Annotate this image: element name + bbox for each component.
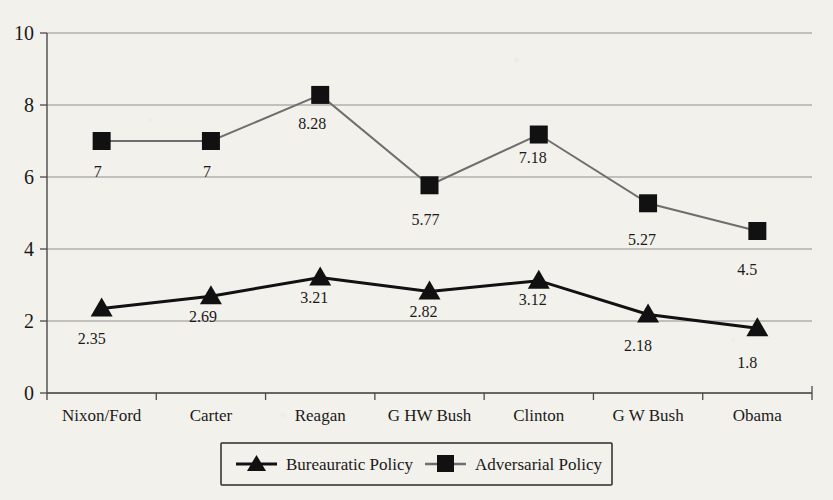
triangle-marker: [309, 266, 331, 285]
square-marker: [639, 194, 657, 212]
y-tick-label: 8: [24, 94, 34, 116]
y-tick-label: 6: [24, 166, 34, 188]
square-marker: [421, 176, 439, 194]
data-point-label: 2.35: [78, 330, 106, 347]
legend-label-adversarial-policy: Adversarial Policy: [475, 455, 602, 474]
chart-legend: Bureauratic Policy Adversarial Policy: [221, 443, 612, 485]
square-marker: [530, 126, 548, 144]
data-point-label: 2.82: [410, 303, 438, 320]
y-tick-label: 0: [24, 382, 34, 404]
data-point-label: 7: [203, 163, 211, 180]
y-tick-label: 2: [24, 310, 34, 332]
square-marker: [202, 132, 220, 150]
data-point-label: 5.77: [412, 211, 440, 228]
series-value-labels-adversarial-policy: 778.285.777.185.274.5: [94, 115, 758, 278]
legend-item-adversarial-policy[interactable]: Adversarial Policy: [425, 455, 602, 474]
legend-label-bureauratic-policy: Bureauratic Policy: [286, 455, 413, 474]
data-point-label: 2.18: [624, 337, 652, 354]
series-markers-bureauratic-policy: [91, 266, 769, 336]
triangle-marker: [528, 270, 550, 289]
square-marker: [748, 222, 766, 240]
data-point-label: 1.8: [737, 354, 757, 371]
data-point-label: 3.21: [300, 289, 328, 306]
y-tick-label: 4: [24, 238, 34, 260]
data-point-label: 5.27: [628, 231, 656, 248]
y-axis-ticks: 0246810: [14, 22, 47, 404]
square-marker: [311, 86, 329, 104]
line-chart: 0246810 778.285.777.185.274.5 2.352.693.…: [0, 0, 833, 500]
x-category-label: G HW Bush: [388, 406, 472, 425]
x-category-label: Carter: [190, 406, 233, 425]
x-axis-ticks: [47, 393, 812, 400]
data-point-label: 4.5: [737, 261, 757, 278]
data-point-label: 7: [94, 163, 102, 180]
data-point-label: 8.28: [298, 115, 326, 132]
x-axis-category-labels: Nixon/FordCarterReaganG HW BushClintonG …: [62, 406, 782, 425]
x-category-label: Obama: [733, 406, 783, 425]
square-marker-icon: [437, 455, 454, 472]
x-category-label: Nixon/Ford: [62, 406, 142, 425]
x-category-label: Clinton: [513, 406, 565, 425]
legend-item-bureauratic-policy[interactable]: Bureauratic Policy: [236, 455, 413, 474]
x-category-label: G W Bush: [612, 406, 684, 425]
data-point-label: 3.12: [519, 291, 547, 308]
y-tick-label: 10: [14, 22, 34, 44]
data-point-label: 2.69: [189, 308, 217, 325]
series-value-labels-bureauratic-policy: 2.352.693.212.823.122.181.8: [78, 289, 758, 371]
square-marker: [93, 132, 111, 150]
data-point-label: 7.18: [519, 149, 547, 166]
chart-canvas: 0246810 778.285.777.185.274.5 2.352.693.…: [0, 0, 833, 500]
x-category-label: Reagan: [295, 406, 346, 425]
